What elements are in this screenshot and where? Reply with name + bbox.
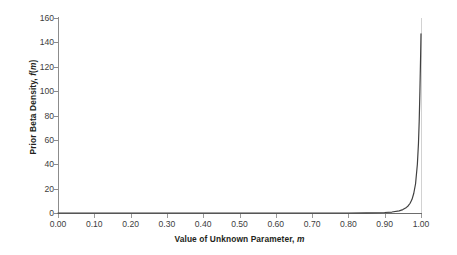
x-tick-mark: [312, 214, 313, 218]
y-tick-label: 0: [24, 209, 54, 218]
x-tick-mark: [421, 214, 422, 218]
x-tick-label: 0.90: [365, 219, 405, 229]
prior-beta-density-curve: [58, 18, 421, 214]
x-axis-title: Value of Unknown Parameter, m: [58, 234, 421, 244]
density-line: [58, 34, 421, 213]
x-tick-label: 1.00: [401, 219, 441, 229]
x-tick-mark: [94, 214, 95, 218]
x-tick-label: 0.30: [147, 219, 187, 229]
y-tick-label: 40: [24, 160, 54, 169]
x-tick-mark: [203, 214, 204, 218]
prior-beta-density-chart: Prior Beta Density, f(m) 020406080100120…: [0, 0, 457, 255]
x-tick-label: 0.40: [183, 219, 223, 229]
y-tick-label: 20: [24, 184, 54, 193]
x-tick-mark: [240, 214, 241, 218]
y-tick-label: 160: [24, 14, 54, 23]
x-tick-mark: [348, 214, 349, 218]
y-tick-label: 140: [24, 38, 54, 47]
x-tick-label: 0.00: [38, 219, 78, 229]
y-tick-label: 80: [24, 111, 54, 120]
x-tick-label: 0.70: [292, 219, 332, 229]
x-tick-mark: [58, 214, 59, 218]
x-tick-label: 0.60: [256, 219, 296, 229]
x-tick-label: 0.80: [328, 219, 368, 229]
y-tick-label: 60: [24, 136, 54, 145]
x-axis-title-text: Value of Unknown Parameter,: [175, 234, 295, 244]
y-axis-tick-labels: 020406080100120140160: [24, 12, 54, 214]
y-tick-label: 120: [24, 62, 54, 71]
y-tick-label: 100: [24, 87, 54, 96]
x-axis-tick-labels: 0.000.100.200.300.400.500.600.700.800.90…: [0, 219, 457, 233]
x-tick-label: 0.10: [74, 219, 114, 229]
x-tick-mark: [276, 214, 277, 218]
x-tick-mark: [167, 214, 168, 218]
x-axis-title-m: m: [297, 234, 305, 244]
x-tick-label: 0.20: [111, 219, 151, 229]
x-tick-mark: [385, 214, 386, 218]
x-tick-mark: [131, 214, 132, 218]
x-tick-label: 0.50: [220, 219, 260, 229]
